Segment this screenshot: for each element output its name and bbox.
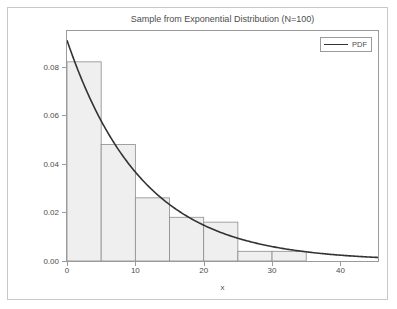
y-tick-mark (62, 261, 66, 262)
x-tick-mark (67, 262, 68, 266)
histogram-bar (170, 217, 204, 261)
y-tick-label: 0.06 (43, 111, 59, 120)
histogram-bars (67, 62, 306, 261)
histogram-bar (272, 251, 306, 261)
y-tick-label: 0.04 (43, 159, 59, 168)
x-tick-mark (340, 262, 341, 266)
x-axis-label: x (66, 283, 379, 292)
x-tick-label: 30 (268, 266, 277, 275)
legend-line-swatch (324, 44, 348, 45)
y-tick-label: 0.00 (43, 257, 59, 266)
plot-canvas (67, 31, 378, 261)
y-tick-mark (62, 115, 66, 116)
chart-figure: Sample from Exponential Distribution (N=… (0, 0, 397, 309)
legend-item-label: PDF (352, 40, 367, 49)
x-tick-mark (204, 262, 205, 266)
x-tick-label: 10 (131, 266, 140, 275)
chart-title: Sample from Exponential Distribution (N=… (66, 14, 379, 24)
x-tick-label: 20 (199, 266, 208, 275)
histogram-bar (67, 62, 101, 261)
y-tick-label: 0.02 (43, 208, 59, 217)
y-tick-mark (62, 212, 66, 213)
plot-area: PDF (66, 30, 379, 262)
x-tick-label: 0 (65, 266, 69, 275)
x-tick-mark (135, 262, 136, 266)
legend[interactable]: PDF (320, 37, 372, 52)
x-tick-mark (272, 262, 273, 266)
y-tick-mark (62, 164, 66, 165)
y-tick-label: 0.08 (43, 62, 59, 71)
histogram-bar (135, 198, 169, 261)
histogram-bar (101, 144, 135, 261)
x-tick-label: 40 (336, 266, 345, 275)
y-tick-mark (62, 67, 66, 68)
histogram-bar (238, 251, 272, 261)
